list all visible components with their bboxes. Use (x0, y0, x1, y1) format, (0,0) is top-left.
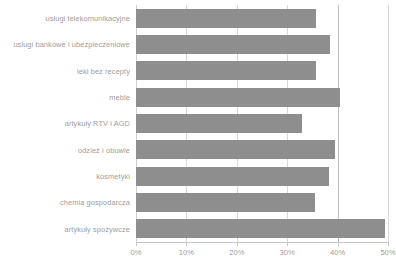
category-label: artykuły RTV i AGD (65, 119, 130, 128)
tick-mark (136, 242, 137, 246)
category-label: usługi telekomunikacyjne (45, 14, 130, 23)
bar (136, 88, 340, 107)
bar-row: usługi telekomunikacyjne (136, 9, 388, 28)
tick-label: 50% (380, 248, 395, 257)
tick-label: 30% (280, 248, 295, 257)
bar-series: usługi telekomunikacyjneusługi bankowe i… (136, 5, 388, 242)
bar (136, 61, 316, 80)
tick-mark (237, 242, 238, 246)
category-label: odzież i obuwie (78, 145, 130, 154)
bar (136, 193, 315, 212)
bar-row: chemia gospodarcza (136, 193, 388, 212)
category-label: leki bez recepty (77, 66, 130, 75)
bar-row: artykuły RTV i AGD (136, 114, 388, 133)
bar (136, 9, 316, 28)
category-label: artykuły spożywcze (65, 224, 130, 233)
plot-area: usługi telekomunikacyjneusługi bankowe i… (136, 5, 388, 242)
tick-mark (388, 242, 389, 246)
bar (136, 219, 385, 238)
tick-label: 20% (229, 248, 244, 257)
tick-label: 0% (131, 248, 142, 257)
tick-label: 40% (330, 248, 345, 257)
category-label: meble (109, 93, 130, 102)
tick-mark (338, 242, 339, 246)
bar (136, 114, 302, 133)
bar (136, 35, 330, 54)
x-axis-line (136, 242, 388, 243)
bar-row: leki bez recepty (136, 61, 388, 80)
tick-label: 10% (179, 248, 194, 257)
tick-mark (186, 242, 187, 246)
bar-row: meble (136, 88, 388, 107)
category-label: chemia gospodarcza (60, 198, 130, 207)
bar-row: usługi bankowe i ubezpieczeniowe (136, 35, 388, 54)
gridline-50pct (388, 5, 389, 242)
bar-row: kosmetyki (136, 167, 388, 186)
bar-row: odzież i obuwie (136, 140, 388, 159)
bar-row: artykuły spożywcze (136, 219, 388, 238)
category-label: usługi bankowe i ubezpieczeniowe (13, 40, 130, 49)
bar (136, 140, 335, 159)
category-label: kosmetyki (96, 172, 130, 181)
bar (136, 167, 329, 186)
tick-mark (287, 242, 288, 246)
